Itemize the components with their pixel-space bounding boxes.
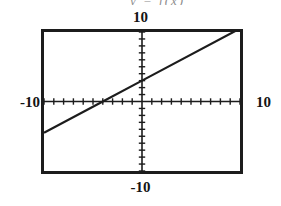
calculator-screen-figure: y = f(x) 10 -10 10 -10 bbox=[0, 0, 281, 206]
axes-group bbox=[44, 32, 240, 171]
plot-frame bbox=[41, 29, 243, 174]
plotted-curves bbox=[44, 32, 236, 133]
y-max-label: 10 bbox=[0, 10, 281, 25]
plot-canvas bbox=[44, 32, 240, 171]
x-max-label: 10 bbox=[256, 95, 281, 110]
x-min-label: -10 bbox=[2, 95, 40, 110]
y-min-label: -10 bbox=[0, 180, 281, 195]
curve-f-x- bbox=[44, 32, 236, 133]
clipped-equation-text: y = f(x) bbox=[130, 0, 281, 5]
